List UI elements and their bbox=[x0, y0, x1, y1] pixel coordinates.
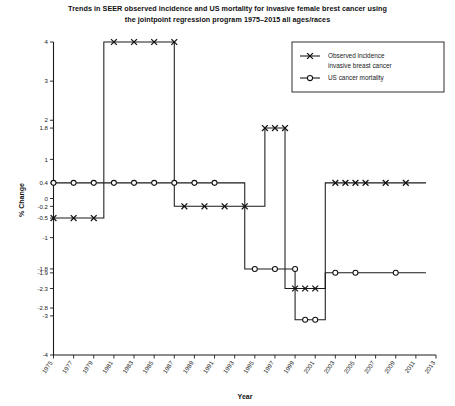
chart-legend: Observed incidenceinvasive breast cancer… bbox=[292, 42, 444, 92]
marker-o-point bbox=[252, 266, 257, 271]
y-tick-label: -1 bbox=[43, 234, 49, 241]
x-tick-label: 1991 bbox=[201, 359, 215, 375]
legend-label: US cancer mortality bbox=[328, 74, 385, 82]
x-tick-label: 2003 bbox=[322, 359, 336, 375]
x-tick-label: 1977 bbox=[60, 359, 74, 375]
y-tick-label: -2.3 bbox=[37, 285, 48, 292]
y-axis-ticks: 4321.810.40-0.2-0.5-1-1.8-1.9-2.3-2.8-3-… bbox=[37, 38, 53, 358]
marker-o-point bbox=[313, 317, 318, 322]
x-tick-label: 1995 bbox=[242, 359, 256, 375]
y-tick-label: -0.5 bbox=[37, 214, 48, 221]
marker-o-point bbox=[333, 270, 338, 275]
marker-o-point bbox=[71, 180, 76, 185]
x-tick-label: 2011 bbox=[403, 359, 417, 374]
x-tick-label: 1975 bbox=[40, 359, 54, 375]
marker-o-point bbox=[353, 270, 358, 275]
marker-o-point bbox=[212, 180, 217, 185]
x-tick-label: 1997 bbox=[262, 359, 276, 375]
x-tick-label: 1999 bbox=[282, 359, 296, 375]
y-tick-label: 1.8 bbox=[40, 124, 49, 131]
y-tick-label: 0 bbox=[45, 195, 49, 202]
series-mortality bbox=[51, 180, 426, 322]
x-tick-label: 2009 bbox=[382, 359, 396, 375]
x-axis-title: Year bbox=[238, 393, 253, 400]
marker-o-point bbox=[192, 180, 197, 185]
marker-o-point bbox=[132, 180, 137, 185]
y-tick-label: 3 bbox=[45, 77, 49, 84]
marker-o-point bbox=[91, 180, 96, 185]
y-tick-label: -0.2 bbox=[37, 203, 48, 210]
x-tick-label: 1979 bbox=[80, 359, 94, 375]
marker-o-point bbox=[152, 180, 157, 185]
marker-o-point bbox=[393, 270, 398, 275]
x-tick-label: 1981 bbox=[101, 359, 115, 375]
x-tick-label: 2007 bbox=[362, 359, 376, 375]
chart-plot-area: 4321.810.40-0.2-0.5-1-1.8-1.9-2.3-2.8-3-… bbox=[0, 0, 455, 406]
y-tick-label: -1.9 bbox=[37, 269, 48, 276]
y-tick-label: 1 bbox=[45, 156, 49, 163]
chart-figure: Trends in SEER observed incidence and US… bbox=[0, 0, 455, 406]
marker-o-point bbox=[51, 180, 56, 185]
y-tick-label: 2 bbox=[45, 116, 49, 123]
x-axis-ticks: 1975197719791981198319851987198919911993… bbox=[40, 355, 436, 375]
x-tick-label: 2001 bbox=[302, 359, 316, 375]
x-tick-label: 1985 bbox=[141, 359, 155, 375]
marker-o-point bbox=[172, 180, 177, 185]
y-tick-label: -2.8 bbox=[37, 304, 48, 311]
y-tick-label: 4 bbox=[45, 38, 49, 45]
y-tick-label: -4 bbox=[43, 351, 49, 358]
marker-o-point bbox=[303, 317, 308, 322]
series-step-line bbox=[54, 183, 426, 320]
legend-label: Observed incidence bbox=[328, 52, 385, 59]
marker-o-point bbox=[111, 180, 116, 185]
marker-o-point bbox=[293, 266, 298, 271]
x-tick-label: 1993 bbox=[221, 359, 235, 375]
marker-o-point bbox=[272, 266, 277, 271]
x-tick-label: 1989 bbox=[181, 359, 195, 375]
legend-marker-o bbox=[307, 75, 312, 80]
y-tick-label: 0.4 bbox=[40, 179, 49, 186]
x-tick-label: 2005 bbox=[342, 359, 356, 375]
y-tick-label: -3 bbox=[43, 312, 49, 319]
x-tick-label: 2013 bbox=[423, 359, 437, 375]
x-tick-label: 1987 bbox=[161, 359, 175, 375]
y-axis-title: % Change bbox=[18, 183, 26, 217]
legend-label: invasive breast cancer bbox=[328, 62, 392, 69]
x-tick-label: 1983 bbox=[121, 359, 135, 375]
